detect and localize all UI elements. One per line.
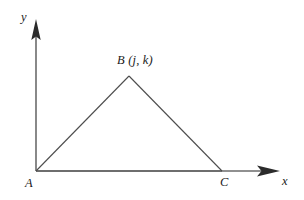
geometry-figure: B (j, k) A C y x (0, 0, 304, 200)
x-axis-label: x (282, 175, 288, 188)
coordinate-plane-svg (0, 0, 304, 200)
y-axis-label: y (21, 11, 27, 24)
triangle-side-bc (129, 76, 222, 171)
triangle-side-ab (36, 76, 129, 171)
vertex-label-c: C (220, 176, 228, 189)
vertex-label-a: A (25, 177, 33, 190)
vertex-label-b: B (j, k) (117, 54, 153, 67)
